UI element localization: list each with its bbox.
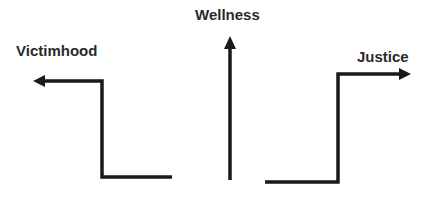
- arrowhead-up-icon: [224, 36, 236, 49]
- arrowhead-right-icon: [399, 68, 411, 80]
- diagram-canvas: [0, 0, 426, 199]
- arrowhead-left-icon: [33, 75, 45, 87]
- victimhood-path: [42, 81, 172, 177]
- justice-path: [265, 74, 401, 182]
